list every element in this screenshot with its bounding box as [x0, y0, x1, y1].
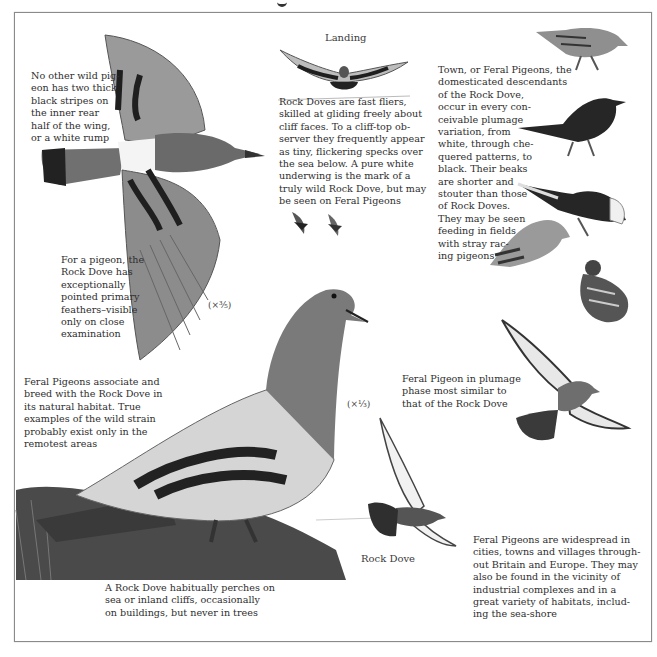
caption-white-rump: No other wild pig- eon has two thick bla…: [31, 70, 119, 144]
caption-perches: A Rock Dove habitually perches on sea or…: [105, 582, 275, 619]
rock-dove-label: Rock Dove: [361, 553, 415, 564]
title-fragment: [277, 0, 287, 7]
caption-fast-fliers: Rock Doves are fast fliers, skilled at g…: [279, 96, 426, 208]
scale-flying-rock-dove: (×³⁄₅): [208, 300, 231, 310]
caption-associate-breed: Feral Pigeons associate and breed with t…: [24, 376, 163, 450]
tiny-flying-doves-illustration: [290, 208, 350, 240]
caption-pointed-primaries: For a pigeon, the Rock Dove has exceptio…: [61, 254, 144, 341]
feral-pigeon-standing-back-illustration: [575, 258, 633, 326]
caption-widespread: Feral Pigeons are widespread in cities, …: [473, 534, 640, 621]
caption-town-pigeons: Town, or Feral Pigeons, the domesticated…: [438, 64, 572, 263]
caption-plumage-phase: Feral Pigeon in plumage phase most simil…: [402, 373, 521, 410]
landing-label: Landing: [325, 32, 366, 43]
scale-perched-rock-dove: (×¹⁄₃): [347, 399, 370, 409]
rock-dove-flying-illustration: [366, 418, 461, 548]
landing-rock-dove-illustration: [278, 44, 410, 104]
